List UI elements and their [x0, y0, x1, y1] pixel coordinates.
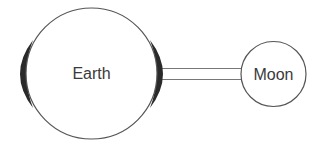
earth-moon-connector: [162, 69, 242, 80]
moon-label: Moon: [253, 66, 293, 83]
earth: Earth: [26, 8, 157, 139]
earth-label: Earth: [72, 65, 110, 82]
moon: Moon: [241, 42, 306, 107]
earth-moon-tide-diagram: Earth Moon: [0, 0, 317, 148]
